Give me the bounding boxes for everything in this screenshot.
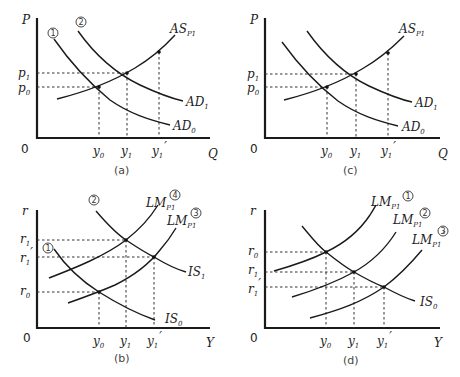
tick-y1-prime: y1′ bbox=[146, 330, 162, 350]
svg-text:1: 1 bbox=[406, 192, 411, 201]
y-axis-label: P bbox=[249, 13, 259, 27]
tick-p1: p1 bbox=[18, 66, 30, 82]
label-lm-2: LMP1 bbox=[392, 213, 422, 229]
tick-p0: p0 bbox=[247, 81, 260, 97]
label-ad0: AD0 bbox=[172, 119, 196, 135]
svg-text:3: 3 bbox=[194, 209, 199, 218]
y-axis-label: P bbox=[21, 13, 31, 27]
marker-4: 4 bbox=[170, 190, 180, 200]
caption-a: (a) bbox=[114, 164, 129, 177]
lm-prime-curve bbox=[310, 250, 422, 318]
macro-diagrams: P Q 0 p1 p0 y0 y1 y1′ ASP1 AD1 AD0 1 2 bbox=[0, 0, 460, 377]
lm-upper-curve bbox=[49, 205, 158, 278]
marker-1: 1 bbox=[43, 243, 53, 253]
origin-label: 0 bbox=[21, 142, 29, 156]
marker-2: 2 bbox=[89, 195, 99, 205]
caption-d: (d) bbox=[343, 354, 359, 367]
panel-b: r Y 0 r1 r1′ r0 y0 y1 y1′ LMP1 LMP1 IS1 … bbox=[20, 190, 215, 365]
svg-text:2: 2 bbox=[79, 18, 84, 27]
label-as: ASP1 bbox=[398, 22, 425, 38]
tick-r1: r1 bbox=[20, 232, 30, 248]
guide-lines bbox=[265, 53, 388, 138]
tick-r0: r0 bbox=[20, 284, 31, 300]
svg-text:1: 1 bbox=[51, 29, 56, 38]
equilibrium-point bbox=[352, 270, 356, 274]
label-ad1: AD1 bbox=[414, 96, 438, 112]
tick-y1-prime: y1′ bbox=[151, 140, 167, 160]
x-axis-label: Q bbox=[438, 147, 448, 161]
svg-text:4: 4 bbox=[173, 191, 178, 200]
guide-lines bbox=[37, 240, 154, 328]
tick-y1: y1 bbox=[349, 144, 361, 160]
svg-text:3: 3 bbox=[441, 227, 446, 236]
tick-r1-prime: r1′ bbox=[248, 277, 261, 298]
equilibrium-point bbox=[382, 285, 386, 289]
tick-y0: y0 bbox=[92, 144, 105, 160]
svg-text:2: 2 bbox=[92, 196, 97, 205]
ad0-curve bbox=[54, 39, 170, 125]
caption-b: (b) bbox=[114, 352, 130, 365]
ad0-curve bbox=[282, 42, 398, 126]
equilibrium-point bbox=[152, 255, 156, 259]
tick-p0: p0 bbox=[18, 81, 31, 97]
tick-r0: r0 bbox=[248, 244, 259, 260]
equilibrium-point bbox=[97, 85, 101, 89]
label-ad1: AD1 bbox=[185, 95, 209, 111]
label-lm-1: LMP1 bbox=[370, 195, 400, 211]
tick-y0: y0 bbox=[92, 334, 105, 350]
label-ad0: AD0 bbox=[401, 120, 425, 136]
ad1-curve bbox=[307, 31, 412, 102]
is0-curve bbox=[302, 226, 415, 301]
label-is0: IS0 bbox=[164, 312, 183, 328]
lm-1-curve bbox=[274, 205, 376, 271]
panel-a: P Q 0 p1 p0 y0 y1 y1′ ASP1 AD1 AD0 1 2 bbox=[18, 13, 218, 177]
panel-c: P Q 0 p1 p0 y0 y1 y1′ ASP1 AD1 AD0 (c) bbox=[247, 13, 448, 177]
tick-y1: y1 bbox=[347, 334, 359, 350]
svg-text:1: 1 bbox=[46, 244, 51, 253]
x-axis-label: Y bbox=[434, 336, 443, 350]
label-is0: IS0 bbox=[419, 295, 438, 311]
equilibrium-point bbox=[125, 71, 129, 75]
x-axis-label: Y bbox=[206, 336, 215, 350]
marker-3: 3 bbox=[191, 208, 201, 218]
x-axis-label: Q bbox=[208, 147, 218, 161]
label-as: ASP1 bbox=[169, 22, 196, 38]
equilibrium-point bbox=[124, 238, 128, 242]
marker-3: 3 bbox=[438, 226, 448, 236]
point bbox=[386, 51, 390, 55]
svg-text:2: 2 bbox=[423, 209, 428, 218]
y-axis-label: r bbox=[22, 204, 29, 218]
tick-y0: y0 bbox=[320, 144, 333, 160]
tick-r1: r1 bbox=[248, 263, 258, 279]
marker-1: 1 bbox=[48, 28, 58, 38]
point bbox=[157, 50, 161, 54]
ad1-curve bbox=[78, 31, 183, 101]
equilibrium-point bbox=[324, 250, 328, 254]
equilibrium-point bbox=[354, 72, 358, 76]
tick-y1: y1 bbox=[120, 144, 132, 160]
marker-2: 2 bbox=[76, 17, 86, 27]
caption-c: (c) bbox=[343, 164, 358, 177]
tick-y0: y0 bbox=[319, 334, 332, 350]
equilibrium-point bbox=[325, 85, 329, 89]
origin-label: 0 bbox=[23, 331, 31, 345]
origin-label: 0 bbox=[250, 142, 258, 156]
is0-curve bbox=[54, 249, 155, 320]
tick-y1: y1 bbox=[119, 334, 131, 350]
as-curve bbox=[57, 35, 175, 99]
tick-y1-prime: y1′ bbox=[376, 330, 392, 350]
marker-1: 1 bbox=[403, 191, 413, 201]
panel-d: r Y 0 r0 r1 r1′ y0 y1 y1′ LMP1 LMP1 LMP1… bbox=[248, 191, 448, 367]
label-is1: IS1 bbox=[187, 265, 205, 281]
tick-r1-prime: r1′ bbox=[20, 246, 33, 267]
equilibrium-point bbox=[97, 290, 101, 294]
origin-label: 0 bbox=[250, 331, 258, 345]
marker-2: 2 bbox=[420, 208, 430, 218]
y-axis-label: r bbox=[250, 204, 257, 218]
tick-y1-prime: y1′ bbox=[380, 140, 396, 160]
